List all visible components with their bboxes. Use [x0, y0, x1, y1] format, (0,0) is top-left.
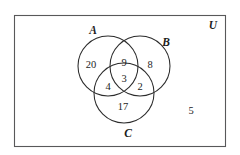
set-label-b: B	[161, 36, 170, 48]
universal-set-label: U	[209, 19, 218, 31]
region-count-bc-only: 2	[137, 81, 142, 92]
region-count-abc: 3	[121, 73, 126, 84]
region-count-a-only: 20	[86, 59, 97, 70]
region-count-ab-only: 9	[121, 57, 126, 68]
set-label-c: C	[124, 127, 132, 139]
region-count-c-only: 17	[118, 101, 129, 112]
region-count-b-only: 8	[147, 59, 152, 70]
region-count-outside: 5	[188, 105, 193, 116]
universal-set-rectangle	[15, 16, 226, 147]
region-count-ac-only: 4	[105, 81, 111, 92]
venn-diagram-figure: U A B C 20 9 8 3 4 2 17 5	[0, 0, 240, 155]
venn-diagram-canvas: U A B C 20 9 8 3 4 2 17 5	[0, 0, 240, 155]
set-label-a: A	[88, 24, 97, 36]
